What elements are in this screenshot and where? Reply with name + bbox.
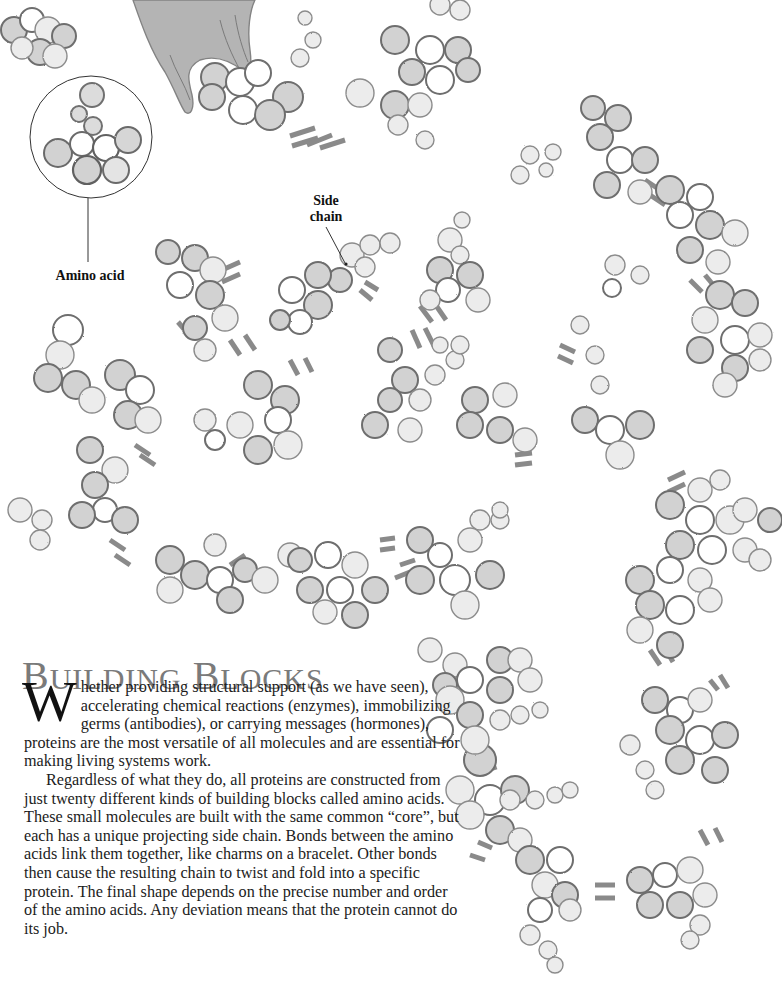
atom-circle: [681, 931, 699, 949]
atom-circle: [454, 212, 470, 228]
atom-circle: [8, 498, 32, 522]
atom-circle: [657, 557, 683, 583]
amino-acid-cluster-upper-mid: [420, 212, 490, 312]
atom-circle: [487, 677, 513, 703]
atom-circle: [135, 407, 161, 433]
atom-circle: [327, 577, 353, 603]
amino-acid-cluster-bottom-chain-left-2: [446, 744, 578, 852]
atom-circle: [518, 668, 542, 692]
amino-acid-cluster-side-chain-cluster: [270, 233, 400, 334]
atom-circle: [562, 782, 578, 798]
atom-circle: [677, 237, 703, 263]
atom-circle: [362, 577, 388, 603]
atom-circle: [706, 281, 734, 309]
atom-circle: [227, 412, 253, 438]
atom-circle: [388, 115, 408, 135]
bond-bar: [290, 360, 298, 375]
atom-circle: [194, 409, 216, 431]
atom-circle: [712, 722, 738, 748]
atom-circle: [342, 602, 368, 628]
atom-circle: [82, 472, 108, 498]
atom-circle: [11, 37, 33, 59]
atom-circle: [656, 716, 684, 744]
bond-bar: [710, 680, 718, 690]
amino-acid-cluster-bottom-center: [288, 542, 388, 628]
atom-circle: [666, 531, 694, 559]
bond-bar: [365, 282, 378, 290]
atom-circle: [426, 66, 454, 94]
side-chain-label-line1: Side: [296, 193, 356, 209]
atom-circle: [758, 508, 782, 532]
atom-circle: [229, 96, 257, 124]
atom-circle: [212, 305, 238, 331]
atom-circle: [430, 0, 450, 15]
atom-circle: [157, 577, 183, 603]
atom-circle: [603, 279, 621, 297]
atom-circle: [607, 147, 633, 173]
atom-circle: [666, 596, 694, 624]
bond-bar: [690, 280, 702, 292]
atom-circle: [274, 431, 302, 459]
atom-circle: [528, 898, 552, 922]
amino-acid-cluster-right-mid: [687, 281, 772, 397]
atom-circle: [451, 591, 479, 619]
atom-circle: [710, 470, 730, 490]
atom-circle: [305, 32, 321, 48]
bond-bar: [400, 560, 415, 565]
bond-bar: [110, 540, 125, 550]
atom-circle: [53, 315, 83, 345]
atom-circle: [545, 144, 561, 160]
atom-circle: [43, 44, 67, 68]
atom-circle: [626, 566, 654, 594]
atom-circle: [451, 246, 469, 264]
amino-acid-cluster-right-lower-2: [620, 687, 738, 799]
atom-circle: [713, 373, 737, 397]
atom-circle: [288, 548, 312, 572]
atom-circle: [428, 543, 452, 567]
atom-circle: [547, 787, 563, 803]
atom-circle: [79, 387, 105, 413]
amino-acid-cluster-left-lower: [8, 437, 138, 550]
atom-circle: [425, 365, 445, 385]
atom-circle: [205, 430, 225, 450]
bond-bar: [515, 453, 532, 455]
atom-circle: [204, 534, 226, 556]
atom-circle: [667, 202, 693, 228]
atom-circle: [112, 507, 138, 533]
atom-circle: [458, 528, 482, 552]
bond-bar: [140, 455, 155, 465]
atom-circle: [513, 428, 537, 452]
atom-circle: [526, 791, 544, 809]
amino-acid-cluster-left-edge-cluster: [34, 315, 161, 433]
atom-circle: [461, 726, 489, 754]
atom-circle: [126, 376, 154, 404]
paragraph-1-text: hether providing structural support (as …: [24, 678, 460, 770]
atom-circle: [416, 131, 434, 149]
atom-circle: [462, 387, 488, 413]
bond-bar: [412, 330, 420, 348]
atom-circle: [572, 407, 598, 433]
atom-circle: [687, 184, 713, 210]
atom-circle: [378, 388, 402, 412]
atom-circle: [315, 542, 341, 568]
atom-circle: [698, 588, 722, 612]
atom-circle: [409, 389, 431, 411]
atom-circle: [702, 757, 728, 783]
bond-bar: [700, 830, 708, 845]
atom-circle: [516, 846, 544, 874]
atom-circle: [398, 418, 422, 442]
atom-circle: [636, 761, 654, 779]
atom-circle: [313, 600, 337, 624]
amino-acid-cluster-left-chain: [156, 240, 238, 361]
paragraph-2: Regardless of what they do, all proteins…: [24, 771, 464, 938]
atom-circle: [687, 337, 713, 363]
atom-circle: [342, 552, 368, 578]
atom-circle: [77, 437, 103, 463]
atom-circle: [298, 11, 312, 25]
bond-bar: [305, 358, 312, 372]
atom-circle: [677, 857, 703, 883]
atom-circle: [605, 255, 625, 275]
atom-circle: [637, 892, 663, 918]
bond-bar: [115, 555, 130, 565]
atom-circle: [511, 166, 529, 184]
